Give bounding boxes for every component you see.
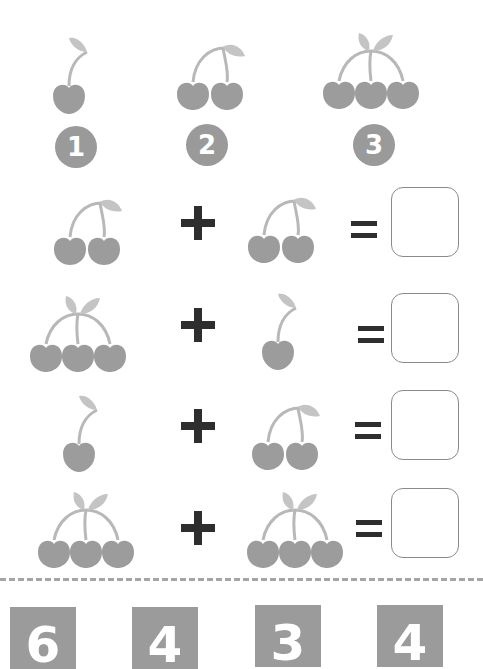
answer-box-3[interactable] bbox=[391, 390, 459, 460]
cherry-3-icon bbox=[323, 25, 419, 111]
equals-icon bbox=[355, 422, 381, 440]
cherry-2-icon bbox=[175, 30, 245, 112]
cherry-1-icon bbox=[57, 388, 101, 474]
answer-box-2[interactable] bbox=[391, 293, 459, 363]
plus-icon bbox=[181, 308, 215, 342]
equals-icon bbox=[351, 221, 377, 239]
equals-icon bbox=[358, 326, 384, 344]
answer-box-1[interactable] bbox=[391, 187, 459, 257]
answer-tile-2[interactable]: 4 bbox=[132, 607, 198, 669]
plus-icon bbox=[181, 409, 215, 443]
legend-badge-1: 1 bbox=[55, 126, 97, 168]
answer-tile-3[interactable]: 3 bbox=[255, 605, 321, 667]
cherry-3-icon bbox=[30, 288, 126, 374]
equals-icon bbox=[356, 520, 382, 538]
answer-tile-4[interactable]: 4 bbox=[377, 605, 443, 667]
plus-icon bbox=[181, 206, 215, 240]
answer-tile-1[interactable]: 6 bbox=[10, 607, 76, 669]
legend-badge-2: 2 bbox=[186, 124, 228, 166]
dashed-cut-line bbox=[0, 578, 483, 581]
answer-box-4[interactable] bbox=[391, 488, 459, 558]
cherry-3-icon bbox=[38, 484, 134, 570]
cherry-3-icon bbox=[247, 484, 343, 570]
plus-icon bbox=[181, 511, 215, 545]
cherry-2-icon bbox=[250, 390, 320, 472]
cherry-2-icon bbox=[246, 183, 316, 265]
cherry-2-icon bbox=[52, 185, 122, 267]
legend-badge-3: 3 bbox=[353, 124, 395, 166]
cherry-1-icon bbox=[256, 286, 300, 372]
cherry-1-icon bbox=[47, 30, 91, 116]
